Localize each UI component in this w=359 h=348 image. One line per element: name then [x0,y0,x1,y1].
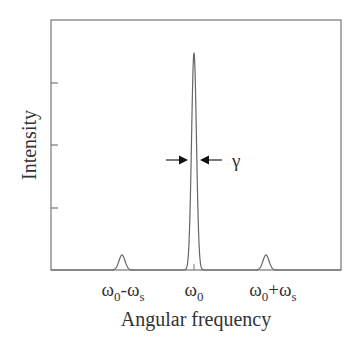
x-axis-label: Angular frequency [121,308,272,331]
y-ticks [51,83,58,208]
gamma-width-arrows [166,156,222,165]
x-tick-label-left: ω0-ωs [102,279,145,304]
arrow-left-icon [200,156,209,165]
x-tick-label-center: ω0 [184,279,203,304]
y-axis-label: Intensity [18,110,41,180]
spectrum-curve [51,53,341,271]
x-tick-label-right: ω0+ωs [249,279,296,304]
arrow-right-icon [179,156,188,165]
gamma-label: γ [231,150,240,171]
chart: γ Intensity ω0-ωs ω0 ω0+ωs Angular frequ… [0,0,359,348]
